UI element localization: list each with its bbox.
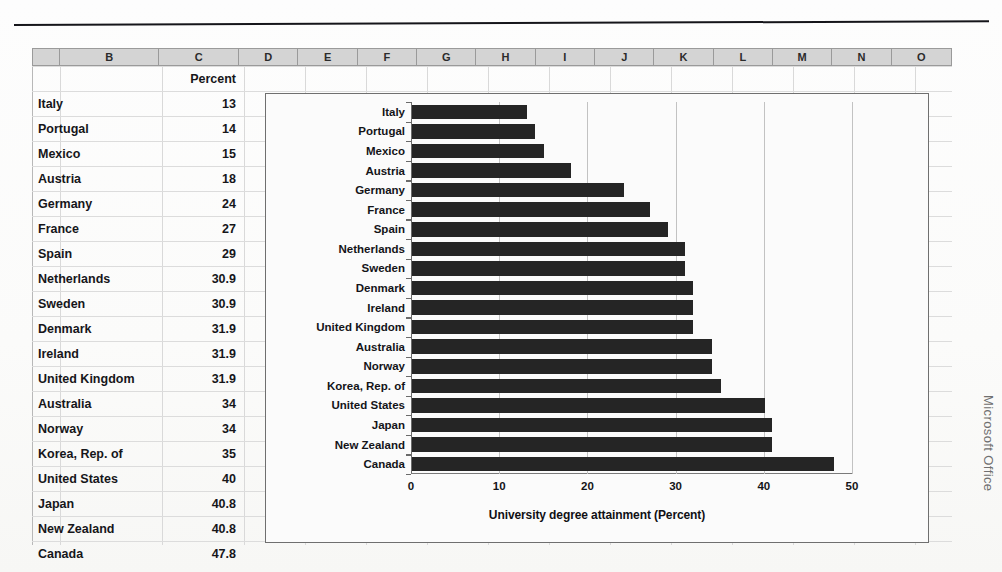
cell-c-percent[interactable]: 35	[162, 441, 244, 466]
bar-austria[interactable]	[412, 163, 571, 177]
cell-b-country[interactable]: United States	[38, 466, 158, 491]
x-axis-title: University degree attainment (Percent)	[266, 508, 928, 522]
column-header-e[interactable]: E	[298, 49, 357, 65]
cell-b-country[interactable]: Australia	[38, 391, 158, 416]
category-label-spain: Spain	[272, 219, 405, 239]
bar-mexico[interactable]	[412, 144, 544, 158]
cell-b-country[interactable]: Germany	[38, 191, 158, 216]
cell-c-percent[interactable]: 24	[162, 191, 244, 216]
bar-new-zealand[interactable]	[412, 437, 772, 451]
bar-canada[interactable]	[412, 457, 834, 471]
category-label-austria: Austria	[272, 161, 405, 181]
plot-area	[411, 102, 852, 474]
bar-netherlands[interactable]	[412, 242, 685, 256]
cell-b-country[interactable]: Japan	[38, 491, 158, 516]
y-axis-tick	[406, 102, 411, 103]
cell-c-percent[interactable]: 15	[162, 141, 244, 166]
cell-b-country[interactable]: United Kingdom	[38, 366, 158, 391]
column-header-g[interactable]: G	[417, 49, 476, 65]
column-header-o[interactable]: O	[892, 49, 951, 65]
cell-b-country[interactable]: Spain	[38, 241, 158, 266]
bar-japan[interactable]	[412, 418, 772, 432]
cell-c-percent[interactable]: 29	[162, 241, 244, 266]
category-label-italy: Italy	[272, 102, 405, 122]
cell-c-percent[interactable]: 14	[162, 116, 244, 141]
cell-b-country[interactable]: Netherlands	[38, 266, 158, 291]
cell-b-country[interactable]: Mexico	[38, 141, 158, 166]
cell-c-percent[interactable]: 30.9	[162, 266, 244, 291]
cell-c-percent[interactable]: 40	[162, 466, 244, 491]
column-header-b[interactable]: B	[60, 49, 159, 65]
x-tick-label-20: 20	[581, 480, 594, 492]
cell-b-country[interactable]: Ireland	[38, 341, 158, 366]
bar-italy[interactable]	[412, 105, 527, 119]
cell-c-percent[interactable]: 30.9	[162, 291, 244, 316]
column-header-i[interactable]: I	[536, 49, 595, 65]
cell-b-country[interactable]: Korea, Rep. of	[38, 441, 158, 466]
column-header-l[interactable]: L	[714, 49, 773, 65]
column-header-m[interactable]: M	[773, 49, 832, 65]
column-header-k[interactable]: K	[654, 49, 713, 65]
bar-australia[interactable]	[412, 339, 712, 353]
cell-b-country[interactable]: Portugal	[38, 116, 158, 141]
page-canvas: BCDEFGHIJKLMNO PercentItaly13Portugal14M…	[0, 0, 1002, 572]
bar-united-states[interactable]	[412, 398, 765, 412]
cell-b-country[interactable]: Norway	[38, 416, 158, 441]
office-credit-label: Microsoft Office	[981, 395, 996, 491]
column-header-row: BCDEFGHIJKLMNO	[32, 48, 952, 66]
cell-b-country[interactable]: Italy	[38, 91, 158, 116]
chart-frame[interactable]: ItalyPortugalMexicoAustriaGermanyFranceS…	[265, 93, 929, 543]
bar-denmark[interactable]	[412, 281, 693, 295]
cell-c-percent[interactable]: 18	[162, 166, 244, 191]
cell-c-percent[interactable]: 31.9	[162, 316, 244, 341]
cell-b-country[interactable]: New Zealand	[38, 516, 158, 541]
column-header-f[interactable]: F	[358, 49, 417, 65]
cell-c-percent[interactable]: 31.9	[162, 341, 244, 366]
y-axis-tick	[406, 180, 411, 181]
column-header-j[interactable]: J	[595, 49, 654, 65]
x-tick-label-0: 0	[408, 480, 414, 492]
bar-ireland[interactable]	[412, 300, 693, 314]
cell-b-country[interactable]: Austria	[38, 166, 158, 191]
column-header-c[interactable]: C	[159, 49, 239, 65]
cell-c-percent[interactable]: 34	[162, 416, 244, 441]
y-axis-tick	[406, 376, 411, 377]
cell-b-country[interactable]: Canada	[38, 541, 158, 566]
x-axis-tick-labels: 01020304050	[411, 480, 852, 496]
bar-norway[interactable]	[412, 359, 712, 373]
bar-france[interactable]	[412, 202, 650, 216]
column-header-d[interactable]: D	[239, 49, 298, 65]
category-label-new-zealand: New Zealand	[272, 435, 405, 455]
bar-portugal[interactable]	[412, 124, 535, 138]
category-label-denmark: Denmark	[272, 278, 405, 298]
cell-c-percent[interactable]: 13	[162, 91, 244, 116]
cell-b-country[interactable]: Denmark	[38, 316, 158, 341]
category-label-korea-rep-of: Korea, Rep. of	[272, 376, 405, 396]
category-label-ireland: Ireland	[272, 298, 405, 318]
cell-c-percent[interactable]: 31.9	[162, 366, 244, 391]
column-header-n[interactable]: N	[832, 49, 891, 65]
y-axis-tick	[406, 435, 411, 436]
bar-korea-rep-of[interactable]	[412, 379, 721, 393]
cell-c-percent[interactable]: 40.8	[162, 516, 244, 541]
grid-left-edge	[32, 66, 33, 545]
y-axis-tick	[406, 161, 411, 162]
cell-c-percent[interactable]: 40.8	[162, 491, 244, 516]
bar-sweden[interactable]	[412, 261, 685, 275]
cell-b-country[interactable]: Sweden	[38, 291, 158, 316]
cell-b-country[interactable]: France	[38, 216, 158, 241]
cell-c-percent[interactable]: 34	[162, 391, 244, 416]
cell-c-percent[interactable]: 47.8	[162, 541, 244, 566]
bar-united-kingdom[interactable]	[412, 320, 693, 334]
y-axis-tick	[406, 239, 411, 240]
gridline-x-50	[852, 102, 853, 474]
cell-c-percent-header[interactable]: Percent	[162, 66, 244, 91]
bar-germany[interactable]	[412, 183, 624, 197]
y-axis-tick	[406, 122, 411, 123]
cell-c-percent[interactable]: 27	[162, 216, 244, 241]
y-axis-tick	[406, 278, 411, 279]
column-header-h[interactable]: H	[476, 49, 535, 65]
category-label-netherlands: Netherlands	[272, 239, 405, 259]
bar-spain[interactable]	[412, 222, 668, 236]
y-axis-tick	[406, 454, 411, 455]
